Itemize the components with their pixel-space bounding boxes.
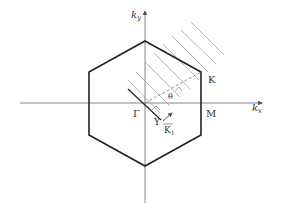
k1-vector <box>163 113 172 121</box>
brillouin-zone-diagram: kx ky Γ K M Y θ K1 <box>0 0 293 212</box>
y-point-label: Y <box>153 117 161 127</box>
angle-label: θ <box>168 92 173 101</box>
gamma-k-dashed <box>145 72 201 103</box>
right-angle-marker <box>152 106 160 110</box>
hatch-lines <box>128 22 224 113</box>
right-angle-marker-2 <box>175 87 182 91</box>
k1-label: K1 <box>164 125 175 136</box>
ky-label: ky <box>131 9 142 22</box>
gamma-label: Γ <box>133 108 140 119</box>
m-point-label: M <box>206 108 216 119</box>
k-point-label: K <box>208 74 216 85</box>
kx-label: kx <box>252 102 262 115</box>
